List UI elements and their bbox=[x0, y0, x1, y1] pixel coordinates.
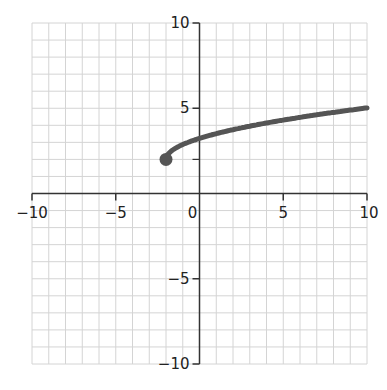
y-tick-label: −5 bbox=[167, 270, 189, 288]
x-tick-label: −10 bbox=[16, 204, 48, 222]
x-tick-label: 10 bbox=[359, 204, 378, 222]
chart: −10−50510−10−5510 bbox=[0, 0, 387, 390]
x-tick-label: 0 bbox=[188, 204, 198, 222]
x-tick-label: 5 bbox=[278, 204, 288, 222]
y-tick-label: 10 bbox=[170, 14, 189, 32]
x-tick-label: −5 bbox=[105, 204, 127, 222]
y-tick-label: 5 bbox=[180, 99, 190, 117]
data-series bbox=[160, 108, 368, 166]
closed-endpoint-dot bbox=[160, 153, 173, 166]
y-tick-label: −10 bbox=[158, 355, 190, 373]
